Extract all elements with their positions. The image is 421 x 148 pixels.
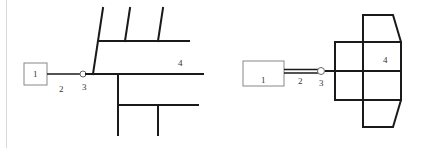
left-diagram: 1 2 3 4 [24,8,203,135]
right-label-3: 3 [319,78,324,88]
left-label-2: 2 [59,84,64,94]
diagram-svg: 1 2 3 4 1 2 [0,0,421,148]
left-branch-network-4 [86,8,203,135]
right-grid-network-4 [325,15,401,127]
diagram-canvas: 1 2 3 4 1 2 [0,0,421,148]
right-label-4: 4 [383,55,388,65]
left-label-4: 4 [178,58,183,68]
left-border-line [6,0,7,148]
left-label-3: 3 [82,82,87,92]
right-node-3 [318,68,325,75]
right-double-connector-2 [284,70,318,74]
right-diagram: 1 2 3 4 [243,15,401,127]
right-label-1: 1 [261,75,266,85]
right-label-2: 2 [298,76,303,86]
left-label-1: 1 [33,69,38,79]
